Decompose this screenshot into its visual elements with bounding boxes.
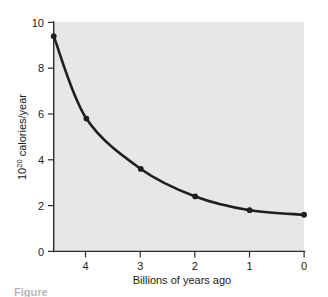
plot-area-background bbox=[53, 22, 304, 251]
y-tick-label-8: 8 bbox=[38, 62, 44, 74]
data-point bbox=[192, 194, 198, 200]
x-axis-title: Billions of years ago bbox=[133, 274, 231, 286]
figure-container: 10 8 6 4 2 0 1020 calories/year 4 3 2 1 … bbox=[0, 0, 328, 297]
x-tick-label-0: 0 bbox=[301, 260, 307, 272]
x-tick-label-4: 4 bbox=[82, 260, 88, 272]
y-axis-title-exponent: 20 bbox=[15, 159, 24, 167]
energy-decline-chart: 10 8 6 4 2 0 1020 calories/year 4 3 2 1 … bbox=[0, 0, 328, 297]
y-axis-title-base: 10 bbox=[16, 168, 28, 180]
y-tick-label-2: 2 bbox=[38, 200, 44, 212]
y-tick-label-4: 4 bbox=[38, 154, 44, 166]
y-tick-label-0: 0 bbox=[38, 246, 44, 258]
data-point bbox=[83, 116, 89, 122]
figure-caption: Figure bbox=[14, 286, 48, 297]
y-tick-label-6: 6 bbox=[38, 108, 44, 120]
y-tick-label-10: 10 bbox=[32, 17, 44, 29]
data-point bbox=[51, 33, 57, 39]
data-point bbox=[301, 212, 307, 218]
y-axis-title-rest: calories/year bbox=[16, 94, 28, 160]
x-tick-label-1: 1 bbox=[246, 260, 252, 272]
data-point bbox=[138, 166, 144, 172]
data-point bbox=[247, 207, 253, 213]
x-tick-label-3: 3 bbox=[137, 260, 143, 272]
x-tick-label-2: 2 bbox=[192, 260, 198, 272]
